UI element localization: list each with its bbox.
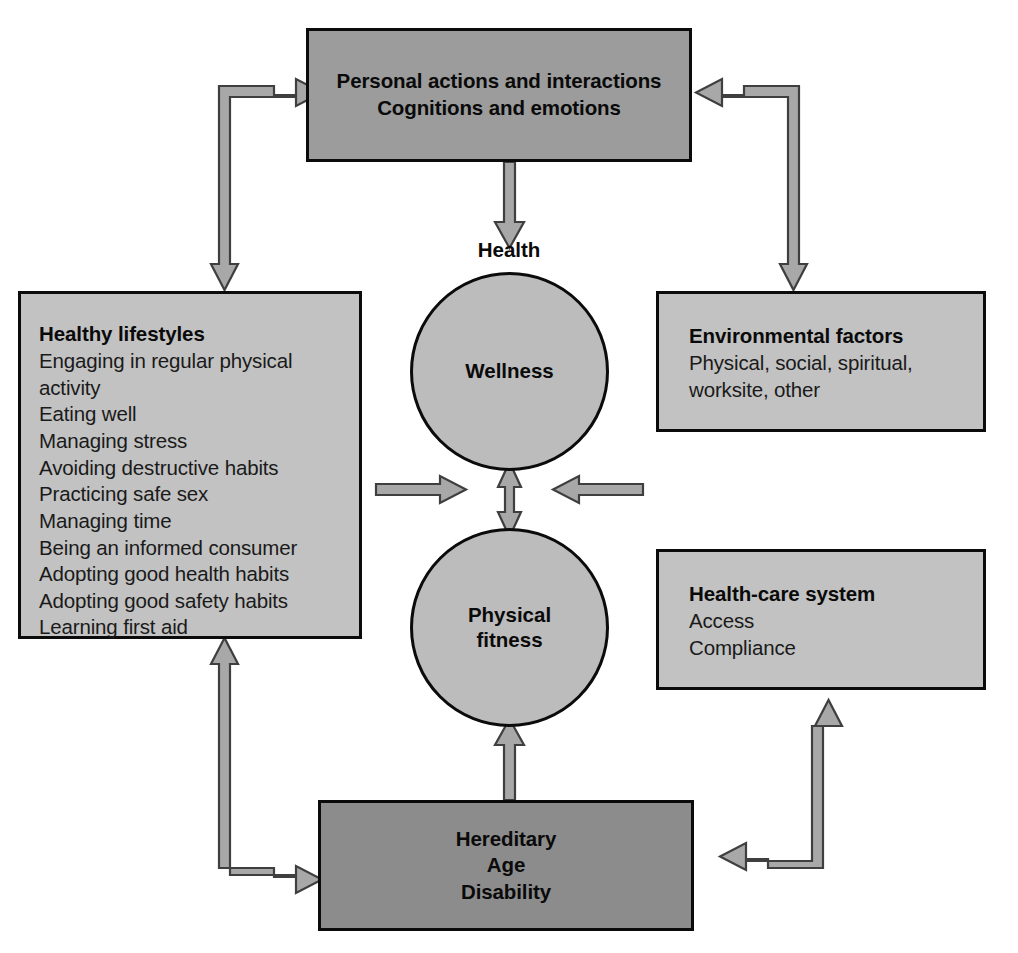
wellness-label: Wellness xyxy=(465,359,554,383)
arrow-lifestyles-hereditary-link xyxy=(211,638,322,893)
hereditary-line-1: Hereditary xyxy=(456,826,556,853)
health-label: Health xyxy=(409,238,609,262)
healthy-lifestyles-item: Adopting good safety habits xyxy=(39,588,359,615)
health-care-system-text: Health-care system Access Compliance xyxy=(659,552,983,661)
node-hereditary-age-disability[interactable]: Hereditary Age Disability xyxy=(318,800,694,931)
health-wellness-diagram: Personal actions and interactions Cognit… xyxy=(0,0,1018,953)
hereditary-line-2: Age xyxy=(487,852,525,879)
arrow-right-to-center xyxy=(553,476,643,503)
node-health-care-system[interactable]: Health-care system Access Compliance xyxy=(656,549,986,690)
node-healthy-lifestyles[interactable]: Healthy lifestyles Engaging in regular p… xyxy=(18,291,362,639)
health-care-system-title: Health-care system xyxy=(689,580,983,607)
healthy-lifestyles-item: Engaging in regular physical activity xyxy=(39,348,359,401)
health-care-system-item: Access xyxy=(689,608,983,635)
personal-actions-text: Personal actions and interactions Cognit… xyxy=(309,31,689,159)
environmental-factors-text: Environmental factors Physical, social, … xyxy=(659,294,983,403)
healthy-lifestyles-title: Healthy lifestyles xyxy=(39,320,359,347)
healthy-lifestyles-item: Managing time xyxy=(39,508,359,535)
healthy-lifestyles-item: Adopting good health habits xyxy=(39,561,359,588)
circle-physical-fitness[interactable]: Physical fitness xyxy=(410,528,609,727)
hereditary-text: Hereditary Age Disability xyxy=(321,803,691,928)
healthy-lifestyles-item: Avoiding destructive habits xyxy=(39,455,359,482)
personal-actions-line-2: Cognitions and emotions xyxy=(377,95,621,122)
node-personal-actions[interactable]: Personal actions and interactions Cognit… xyxy=(306,28,692,162)
healthy-lifestyles-text: Healthy lifestyles Engaging in regular p… xyxy=(21,294,359,641)
healthy-lifestyles-item: Eating well xyxy=(39,401,359,428)
hereditary-line-3: Disability xyxy=(461,879,551,906)
arrow-hereditary-to-fitness xyxy=(495,719,524,800)
physical-fitness-label: Physical fitness xyxy=(468,603,551,651)
healthy-lifestyles-item: Learning first aid xyxy=(39,614,359,641)
arrow-environmental-personal-actions-link xyxy=(696,79,807,290)
personal-actions-line-1: Personal actions and interactions xyxy=(337,68,662,95)
environmental-factors-item: Physical, social, spiritual, worksite, o… xyxy=(689,350,983,403)
circle-wellness[interactable]: Wellness xyxy=(410,272,609,471)
healthy-lifestyles-item: Managing stress xyxy=(39,428,359,455)
environmental-factors-title: Environmental factors xyxy=(689,322,983,349)
arrow-lifestyles-to-center xyxy=(376,476,466,503)
healthy-lifestyles-item: Being an informed consumer xyxy=(39,535,359,562)
node-environmental-factors[interactable]: Environmental factors Physical, social, … xyxy=(656,291,986,432)
arrow-wellness-fitness-bidirectional xyxy=(498,462,521,537)
arrow-healthcare-hereditary-link xyxy=(720,700,842,870)
health-care-system-item: Compliance xyxy=(689,635,983,662)
healthy-lifestyles-item: Practicing safe sex xyxy=(39,481,359,508)
arrow-top-to-wellness xyxy=(495,162,524,248)
